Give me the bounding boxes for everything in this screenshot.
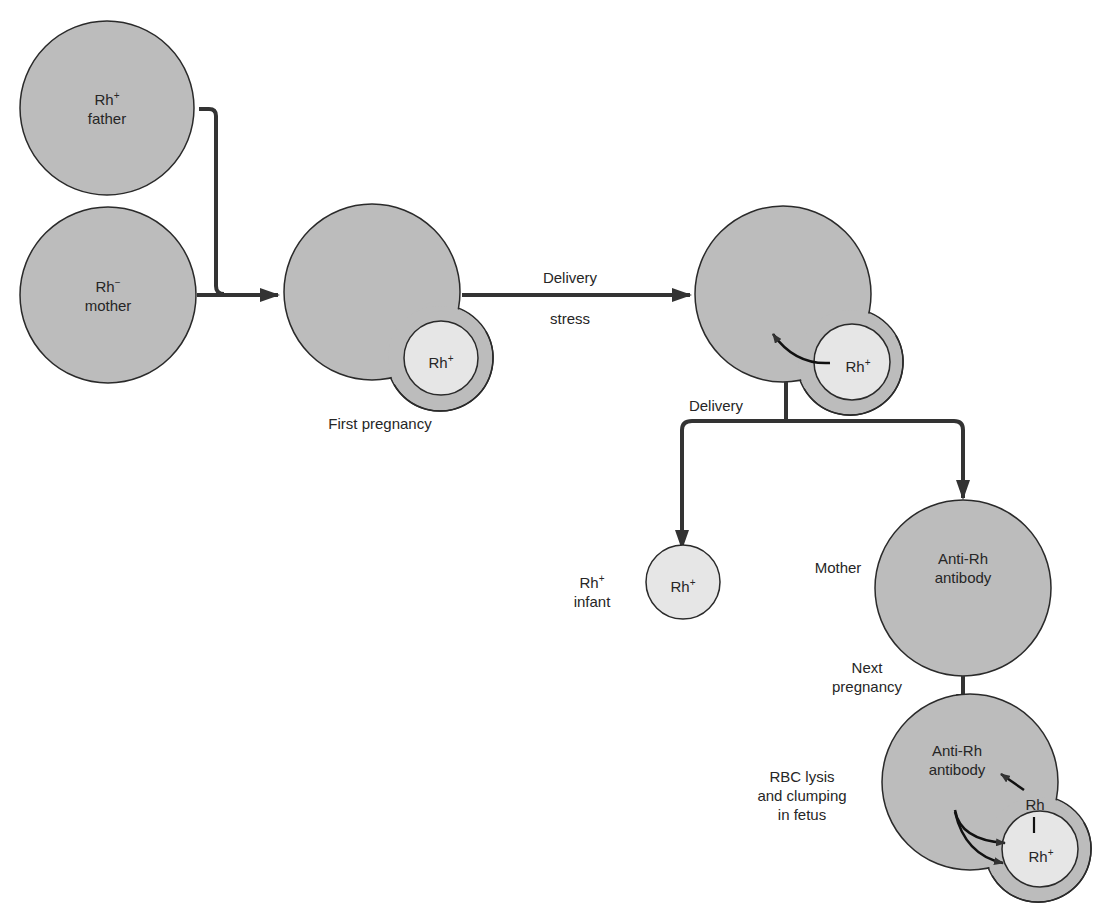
- rbc-lysis-label: RBC lysisand clumpingin fetus: [742, 767, 862, 824]
- infant-cell-label: Rh+: [653, 573, 713, 596]
- next-pregnancy-label: Nextpregnancy: [822, 658, 912, 696]
- next-pregnancy-fetus-label: Rh+: [1016, 843, 1066, 866]
- mother-side-label: Mother: [803, 558, 873, 577]
- delivery-branch-label: Delivery: [676, 396, 756, 415]
- mother-antibody-cell: [875, 500, 1051, 676]
- mother-antibody-label: Anti-Rhantibody: [918, 549, 1008, 587]
- father-connector: [199, 109, 224, 294]
- father-label: Rh+father: [62, 86, 152, 128]
- delivery-stress-fetus-label: Rh+: [833, 353, 883, 376]
- infant-side-label: Rh+infant: [562, 569, 622, 611]
- stress-label: stress: [540, 309, 600, 328]
- first-pregnancy-fetus-label: Rh+: [411, 349, 471, 372]
- next-pregnancy-antibody-label: Anti-Rhantibody: [912, 741, 1002, 779]
- diagram-canvas: [0, 0, 1100, 919]
- first-pregnancy-caption: First pregnancy: [320, 414, 440, 433]
- mother-label: Rh−mother: [63, 273, 153, 315]
- delivery-label: Delivery: [530, 268, 610, 287]
- rh-antigen-label: Rh: [1018, 795, 1052, 814]
